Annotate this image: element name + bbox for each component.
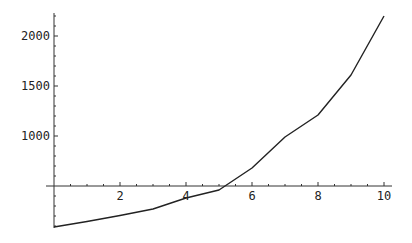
tick-labels: 246810100015002000	[21, 29, 391, 203]
y-tick-label: 1000	[21, 129, 50, 143]
data-line	[54, 16, 384, 227]
x-tick-label: 4	[182, 189, 189, 203]
line-chart: 246810100015002000	[0, 0, 412, 243]
y-tick-label: 1500	[21, 79, 50, 93]
x-tick-label: 10	[377, 189, 391, 203]
ticks	[54, 16, 384, 226]
x-tick-label: 8	[314, 189, 321, 203]
axes	[46, 13, 392, 228]
y-tick-label: 2000	[21, 29, 50, 43]
x-tick-label: 6	[248, 189, 255, 203]
x-tick-label: 2	[116, 189, 123, 203]
